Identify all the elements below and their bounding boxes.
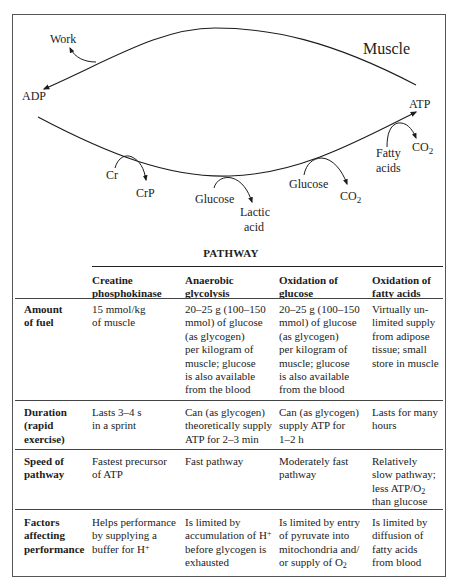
row-label-speed: Speed ofpathway [24,455,64,482]
cell-duration-oxidation-fatty: Lasts for manyhours [372,406,438,433]
glucose-oxidative-label: Glucose [289,177,328,191]
cell-speed-anaerobic: Fast pathway [185,455,243,468]
row-label-amount-of-fuel: Amountof fuel [24,303,63,330]
row-label-duration: Duration(rapidexercise) [24,406,67,446]
adp-label: ADP [22,89,46,103]
row-divider [15,449,443,450]
row-divider [15,400,443,401]
cell-amount-creatine: 15 mmol/kgof muscle [92,303,145,330]
cell-amount-anaerobic: 20–25 g (100–150mmol) of glucose(as glyc… [185,303,266,397]
cr-label: Cr [106,168,118,182]
cell-duration-anaerobic: Can (as glycogen)theoretically supplyATP… [185,406,272,446]
col-header-creatine-phosphokinase: Creatinephosphokinase [92,274,162,301]
cell-speed-oxidation-glucose: Moderately fastpathway [279,455,348,482]
cell-factors-oxidation-fatty: Is limited bydiffusion offatty acidsfrom… [372,516,428,570]
cell-duration-oxidation-glucose: Can (as glycogen)supply ATP for1–2 h [279,406,359,446]
col-header-oxidation-glucose: Oxidation ofglucose [279,274,338,301]
work-label: Work [50,32,76,46]
cell-amount-oxidation-glucose: 20–25 g (100–150mmol) of glucose(as glyc… [279,303,360,397]
acid-label: acid [244,220,264,234]
cell-amount-oxidation-fatty: Virtually un-limited supplyfrom adiposet… [372,303,439,370]
cell-factors-oxidation-glucose: Is limited by entryof pyruvate intomitoc… [279,516,360,570]
glucose-anaerobic-label: Glucose [195,192,234,206]
col-header-oxidation-fatty-acids: Oxidation offatty acids [372,274,431,301]
cell-speed-oxidation-fatty: Relativelyslow pathway; less ATP/O2 than… [372,455,436,509]
cell-factors-creatine: Helps performanceby supplying a buffer f… [92,516,176,556]
crp-label: CrP [136,186,155,200]
muscle-label: Muscle [363,42,410,56]
lower-adp-to-atp-curve [38,112,416,176]
pathway-group-header: PATHWAY [0,247,462,259]
cell-speed-creatine: Fastest precursorof ATP [92,455,167,482]
row-label-factors: Factorsaffectingperformance [24,516,84,556]
work-arrow [70,48,96,62]
cr-to-crp-arrow [115,156,146,180]
cell-duration-creatine: Lasts 3–4 sin a sprint [92,406,142,433]
atp-label: ATP [409,97,430,111]
co2-fatty-label: CO2 [412,140,433,158]
lactic-label: Lactic [240,205,270,219]
acids-label: acids [376,161,401,175]
header-top-rule [92,266,443,267]
header-bottom-rule [15,298,443,299]
col-header-anaerobic-glycolysis: Anaerobicglycolysis [185,274,234,301]
fatty-label: Fatty [376,146,401,160]
co2-glucose-label: CO2 [340,189,361,207]
upper-atp-to-adp-curve [44,28,416,89]
row-divider [15,509,443,510]
cell-factors-anaerobic: Is limited by accumulation of H+ before … [185,516,271,570]
